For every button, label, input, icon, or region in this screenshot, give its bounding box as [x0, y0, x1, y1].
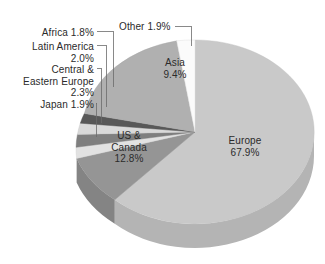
pie-chart-svg: [0, 0, 325, 264]
slice-label-us-canada: US & Canada 12.8%: [101, 130, 157, 165]
callout-label-central-eastern-europe: Central & Eastern Europe 2.3%: [23, 64, 94, 99]
callout-label-japan: Japan 1.9%: [40, 99, 94, 111]
callout-label-africa: Africa 1.8%: [42, 27, 94, 39]
slice-label-europe: Europe 67.9%: [214, 135, 276, 158]
callout-label-latin-america: Latin America 2.0%: [32, 41, 94, 64]
pie-chart-figure: Africa 1.8% Latin America 2.0% Central &…: [0, 0, 325, 264]
slice-label-asia: Asia 9.4%: [148, 57, 202, 80]
callout-label-other: Other 1.9%: [119, 21, 171, 33]
